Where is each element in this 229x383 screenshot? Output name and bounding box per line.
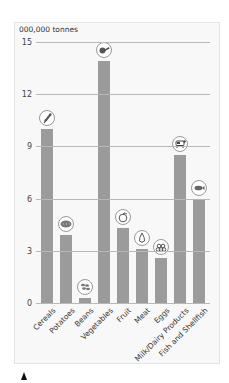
fish-icon	[191, 180, 207, 196]
y-tick-label: 12	[14, 90, 32, 99]
bar-cereals	[41, 129, 53, 303]
arrow-marker-icon	[21, 372, 27, 380]
beans-icon	[77, 279, 93, 295]
y-axis-unit-label: 000,000 tonnes	[19, 25, 78, 34]
gridline	[36, 146, 210, 147]
vegetable-icon	[96, 42, 112, 58]
bar-fruit	[117, 228, 129, 303]
eggs-icon	[153, 239, 169, 255]
y-tick-label: 6	[14, 194, 32, 203]
meat-icon	[134, 230, 150, 246]
cow-icon	[172, 136, 188, 152]
gridline	[36, 303, 210, 304]
bar-vegetables	[98, 61, 110, 303]
y-tick-label: 3	[14, 246, 32, 255]
gridline	[36, 199, 210, 200]
y-tick-label: 15	[14, 38, 32, 47]
bar-potatoes	[60, 235, 72, 303]
y-tick-label: 9	[14, 142, 32, 151]
wheat-icon	[39, 110, 55, 126]
gridline	[36, 94, 210, 95]
apple-icon	[115, 209, 131, 225]
y-tick-label: 0	[14, 299, 32, 308]
bar-milk-dairy-products	[174, 155, 186, 303]
bar-meat	[136, 249, 148, 303]
bread-icon	[58, 216, 74, 232]
gridline	[36, 251, 210, 252]
gridline	[36, 42, 210, 43]
bar-eggs	[155, 258, 167, 303]
